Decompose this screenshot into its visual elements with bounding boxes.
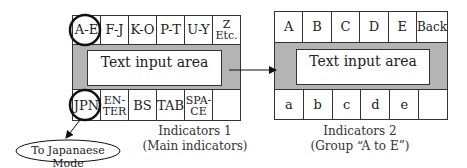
key-p-t[interactable]: P-T [157,16,185,44]
indicators-1-panel: A-E F-J K-O P-T U-Y Z Etc. Text input ar… [72,15,241,121]
key-b[interactable]: B [303,12,331,42]
key-lower-d[interactable]: d [361,90,390,120]
indicators-1-gray-band: Text input area [73,44,240,90]
key-enter[interactable]: EN- TER [101,90,129,121]
indicators-1-caption-subtitle: (Main indicators) [140,139,250,154]
indicators-2-caption-title: Indicators 2 [300,124,420,139]
text-input-area-1[interactable]: Text input area [87,50,222,86]
japanese-mode-label[interactable]: To Japanaese Mode [18,144,118,168]
key-lower-b[interactable]: b [304,90,333,120]
key-a[interactable]: A [275,12,303,42]
indicators-1-bottom-row: JPN EN- TER BS TAB SPA- CE [73,90,240,121]
indicators-1-caption-title: Indicators 1 [140,124,250,139]
indicators-2-panel: A B C D E Back Text input area a b c d e [274,11,448,120]
key-lower-c[interactable]: c [333,90,362,120]
indicators-1-top-row: A-E F-J K-O P-T U-Y Z Etc. [73,16,240,44]
indicators-2-bottom-row: a b c d e [275,90,447,120]
key-a-e[interactable]: A-E [73,16,101,44]
indicators-2-gray-band: Text input area [275,42,447,90]
indicators-1-caption: Indicators 1 (Main indicators) [140,124,250,154]
indicators-2-caption-subtitle: (Group “A to E”) [300,139,420,154]
key-z-etc[interactable]: Z Etc. [213,16,240,44]
indicators-2-top-row: A B C D E Back [275,12,447,42]
key-bs[interactable]: BS [129,90,157,121]
key-e[interactable]: E [389,12,417,42]
key-u-y[interactable]: U-Y [185,16,213,44]
key-lower-e[interactable]: e [390,90,419,120]
key-d[interactable]: D [360,12,388,42]
key-empty-1 [213,90,240,121]
key-back[interactable]: Back [417,12,447,42]
text-input-area-2[interactable]: Text input area [296,49,430,85]
indicators-2-caption: Indicators 2 (Group “A to E”) [300,124,420,154]
key-c[interactable]: C [332,12,360,42]
arrow-to-japanese-mode [66,120,80,138]
key-empty-2 [419,90,447,120]
key-space[interactable]: SPA- CE [185,90,213,121]
key-lower-a[interactable]: a [275,90,304,120]
key-tab[interactable]: TAB [157,90,185,121]
key-k-o[interactable]: K-O [129,16,157,44]
key-f-j[interactable]: F-J [101,16,129,44]
key-jpn[interactable]: JPN [73,90,101,121]
